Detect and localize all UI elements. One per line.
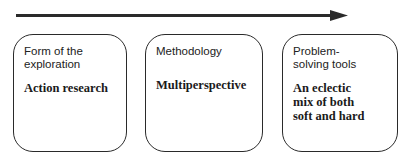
box-methodology: Methodology Multiperspective bbox=[145, 34, 263, 152]
box-value: Action research bbox=[24, 81, 118, 95]
box-problem-solving-tools: Problem- solving tools An eclectic mix o… bbox=[282, 34, 398, 152]
box-value: An eclectic mix of both soft and hard bbox=[293, 81, 389, 123]
box-form-of-exploration: Form of the exploration Action research bbox=[13, 34, 127, 152]
arrow-head-icon bbox=[330, 10, 348, 21]
box-heading: Form of the exploration bbox=[24, 45, 118, 71]
box-value: Multiperspective bbox=[156, 78, 254, 92]
box-heading: Methodology bbox=[156, 45, 254, 58]
box-heading: Problem- solving tools bbox=[293, 45, 389, 71]
progression-arrow bbox=[0, 0, 405, 30]
